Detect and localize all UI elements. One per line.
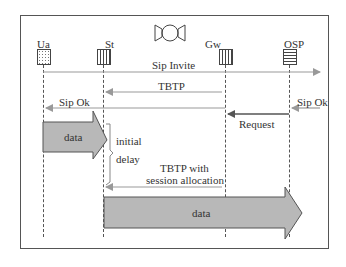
msg-tbtp-with: TBTP with: [160, 163, 209, 174]
msg-request: Request: [239, 119, 274, 130]
msg-sip-ok-left: Sip Ok: [59, 97, 90, 108]
diagram-arrows: [0, 0, 346, 267]
data-label-1: data: [64, 132, 82, 143]
msg-sip-ok-right: Sip Ok: [297, 97, 328, 108]
annotation-delay: delay: [116, 154, 140, 165]
data-label-2: data: [192, 208, 210, 219]
msg-tbtp: TBTP: [158, 81, 185, 92]
annotation-initial: initial: [116, 136, 142, 147]
msg-session-allocation: session allocation: [146, 175, 224, 186]
satellite-icon: [155, 25, 185, 41]
msg-sip-invite: Sip Invite: [152, 60, 195, 71]
initial-delay-brace: [106, 124, 113, 185]
